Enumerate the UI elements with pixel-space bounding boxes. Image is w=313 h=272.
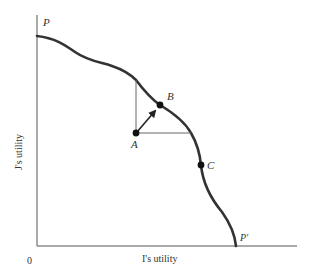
label-b: B [167, 90, 174, 102]
y-axis-label: J's utility [13, 134, 24, 170]
origin-label: 0 [27, 255, 32, 266]
label-p-prime: P′ [239, 232, 249, 243]
point-b-dot [157, 102, 164, 109]
arrow-a-to-b [137, 111, 155, 132]
label-a: A [130, 138, 138, 150]
point-c-dot [198, 162, 205, 169]
label-p: P [42, 16, 50, 28]
label-c: C [207, 159, 215, 171]
utility-frontier-diagram: P P′ A B C 0 I's utility J's utility [0, 0, 313, 272]
x-axis-label: I's utility [142, 253, 177, 264]
point-a-dot [133, 130, 140, 137]
